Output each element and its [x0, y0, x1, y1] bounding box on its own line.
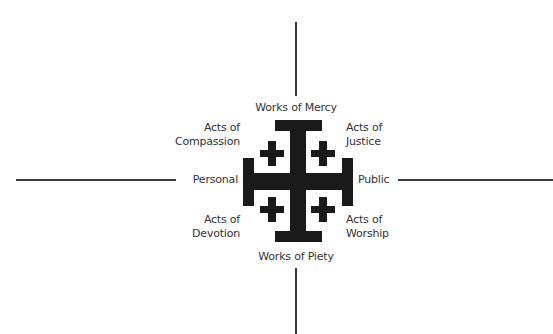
cross-right-bar [342, 158, 353, 206]
quadrant-lower-right-line1: Acts of [346, 213, 416, 227]
cross-horizontal-bar [243, 173, 353, 190]
left-label: Personal [178, 173, 238, 187]
right-axis-line [398, 179, 553, 181]
quadrant-upper-left-label: Acts of Compassion [170, 121, 240, 149]
quadrant-upper-right-line1: Acts of [346, 121, 416, 135]
quadrant-lower-right-line2: Worship [346, 227, 416, 241]
quadrant-lower-left-line1: Acts of [170, 213, 240, 227]
quadrant-lower-right-label: Acts of Worship [346, 213, 416, 241]
quadrant-lower-left-line2: Devotion [170, 227, 240, 241]
cross-bottom-bar [275, 231, 322, 242]
quadrant-lower-left-label: Acts of Devotion [170, 213, 240, 241]
left-axis-line [16, 179, 176, 181]
quadrant-upper-left-line2: Compassion [170, 135, 240, 149]
quadrant-upper-right-line2: Justice [346, 135, 416, 149]
quadrant-upper-left-line1: Acts of [170, 121, 240, 135]
bottom-label: Works of Piety [246, 250, 346, 264]
cross-left-bar [243, 158, 254, 206]
right-label: Public [358, 173, 398, 187]
quadrant-upper-right-label: Acts of Justice [346, 121, 416, 149]
bottom-axis-line [295, 268, 297, 334]
top-label: Works of Mercy [246, 101, 346, 115]
top-axis-line [295, 22, 297, 96]
diagram-canvas: Works of Mercy Works of Piety Personal P… [0, 0, 553, 334]
